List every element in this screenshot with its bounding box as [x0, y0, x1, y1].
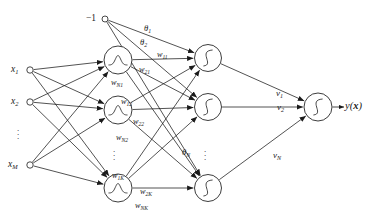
theta-label-1: θ1	[144, 24, 151, 34]
weight-label-w12: w12	[121, 98, 132, 107]
output-node	[304, 93, 332, 121]
theta-label-N: θN	[182, 148, 190, 158]
output-label: y(x)	[345, 101, 362, 112]
weight-label-wNK: wNK	[135, 202, 148, 211]
input-label-xM: xM	[8, 160, 18, 170]
figure-canvas: ·· ···· ·· ·· ··· ···· ·· ·· ··· ··· −1 …	[0, 0, 375, 219]
weight-label-w22: w22	[133, 118, 144, 127]
weight-label-w1K: w1K	[112, 172, 124, 181]
bias-node-shape	[102, 16, 108, 22]
edges-sigmoid-to-output	[219, 64, 305, 180]
network-graph	[0, 0, 375, 219]
weight-label-w2K: w2K	[140, 188, 152, 197]
sigmoid-layer-ellipsis: ...	[204, 147, 206, 160]
output-weight-label-vN: vN	[273, 151, 281, 161]
weight-label-w11: w11	[157, 51, 168, 60]
input-label-x1: x1	[11, 65, 18, 75]
hidden-layer-ellipsis: ...	[113, 147, 115, 160]
input-nodes	[27, 67, 33, 168]
weight-label-wN2: wN2	[116, 134, 128, 143]
output-weight-label-v1: v1	[276, 89, 283, 99]
bias-label: −1	[86, 14, 96, 24]
weight-label-w21: w21	[139, 66, 150, 75]
sigmoid-nodes	[195, 45, 222, 202]
edges-input-to-hidden	[32, 62, 109, 184]
weight-label-wN1: wN1	[111, 79, 123, 88]
theta-label-2: θ2	[140, 38, 147, 48]
output-weight-label-v2: v2	[277, 103, 284, 113]
input-label-x2: x2	[11, 97, 18, 107]
input-layer-ellipsis: ...	[17, 126, 19, 139]
